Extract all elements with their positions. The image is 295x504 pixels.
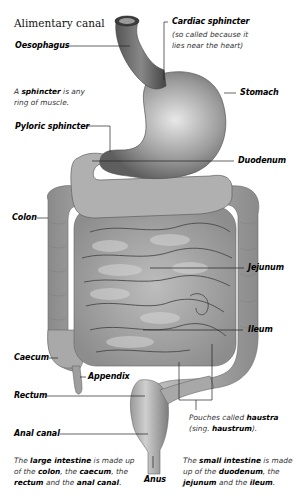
note-cardiac-line2: lies near the heart) xyxy=(172,40,243,51)
note-bold: caecum xyxy=(79,467,111,476)
note-text: of the xyxy=(14,467,38,476)
label-anus: Anus xyxy=(144,475,166,484)
note-text: up of the xyxy=(183,467,219,476)
note-text: . xyxy=(119,478,121,487)
note-bold: colon xyxy=(38,467,60,476)
note-cardiac-line1: (so called because it xyxy=(172,29,248,40)
label-anal-canal: Anal canal xyxy=(14,429,60,438)
label-duodenum: Duodenum xyxy=(238,156,286,165)
note-text: . xyxy=(273,478,275,487)
small-intestine-shape xyxy=(74,206,236,366)
note-bold: large intestine xyxy=(30,456,91,465)
label-jejunum: Jejunum xyxy=(248,263,284,272)
label-cardiac-sphincter: Cardiac sphincter xyxy=(172,17,249,26)
note-bold: jejunum xyxy=(183,478,217,487)
note-text: The xyxy=(14,456,30,465)
note-haustra: Pouches called haustra (sing. haustrum). xyxy=(189,412,279,434)
label-stomach: Stomach xyxy=(240,88,279,97)
note-small-intestine: The small intestine is made up of the du… xyxy=(183,455,293,488)
note-text: (sing. xyxy=(189,424,212,433)
label-appendix: Appendix xyxy=(88,372,130,381)
label-caecum: Caecum xyxy=(14,353,49,362)
note-text: ring of muscle. xyxy=(14,98,69,107)
note-bold: duodenum xyxy=(219,467,263,476)
note-text: Pouches called xyxy=(189,413,246,422)
note-bold: anal canal xyxy=(77,478,120,487)
note-bold: rectum xyxy=(14,478,44,487)
note-text: is made xyxy=(261,456,293,465)
oesophagus-shape xyxy=(115,16,166,89)
note-text: , the xyxy=(111,467,128,476)
note-bold: sphincter xyxy=(21,87,60,96)
note-text: , the xyxy=(60,467,79,476)
note-text: and the xyxy=(44,478,77,487)
label-rectum: Rectum xyxy=(14,391,47,400)
note-bold: ileum xyxy=(250,478,273,487)
note-bold: haustrum xyxy=(212,424,252,433)
note-text: is made up xyxy=(91,456,134,465)
diagram-title: Alimentary canal xyxy=(14,17,105,29)
note-text: and the xyxy=(217,478,250,487)
note-text: The xyxy=(183,456,199,465)
label-oesophagus: Oesophagus xyxy=(15,41,70,50)
note-text: is any xyxy=(61,87,85,96)
appendix-shape xyxy=(72,366,82,394)
note-large-intestine: The large intestine is made up of the co… xyxy=(14,455,135,488)
note-text: , the xyxy=(263,467,280,476)
note-text: ). xyxy=(252,424,257,433)
label-colon: Colon xyxy=(12,213,37,222)
note-bold: small intestine xyxy=(199,456,261,465)
note-sphincter: A sphincter is any ring of muscle. xyxy=(14,86,85,108)
note-bold: haustra xyxy=(246,413,278,422)
label-ileum: Ileum xyxy=(248,325,273,334)
label-pyloric-sphincter: Pyloric sphincter xyxy=(15,122,89,131)
